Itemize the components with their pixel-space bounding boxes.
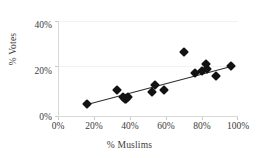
- y-tickmark-20: [55, 66, 58, 67]
- x-axis-line: [58, 116, 238, 117]
- x-tickmark-60: [166, 117, 167, 120]
- x-tickmark-80: [202, 117, 203, 120]
- x-tickmark-0: [58, 117, 59, 120]
- x-tick-label-80: 80%: [182, 121, 222, 131]
- x-tick-label-40: 40%: [110, 121, 150, 131]
- x-tickmark-20: [94, 117, 95, 120]
- data-point: [179, 47, 189, 57]
- y-axis-title: % Votes: [8, 18, 18, 80]
- scatter-chart: % Votes % Muslims 40% 20% 0% 0% 20% 40% …: [0, 0, 259, 158]
- x-tickmark-40: [130, 117, 131, 120]
- x-tick-label-20: 20%: [74, 121, 114, 131]
- data-point: [211, 71, 221, 81]
- data-point: [82, 99, 92, 109]
- y-tick-label-20: 20%: [18, 66, 52, 76]
- gridline-20: [58, 66, 238, 67]
- x-axis-title: % Muslims: [0, 140, 259, 150]
- plot-area: [58, 21, 238, 117]
- gridline-40: [58, 21, 238, 22]
- x-tick-label-100: 100%: [218, 121, 258, 131]
- data-point: [226, 61, 236, 71]
- y-axis-line: [58, 21, 59, 117]
- x-tickmark-100: [237, 117, 238, 120]
- data-point: [159, 85, 169, 95]
- x-tick-label-60: 60%: [146, 121, 186, 131]
- y-tick-label-40: 40%: [18, 20, 52, 30]
- x-tick-label-0: 0%: [38, 121, 78, 131]
- y-tickmark-40: [55, 21, 58, 22]
